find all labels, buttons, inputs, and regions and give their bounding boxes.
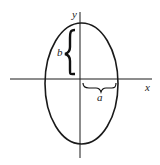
- ellipse: [45, 23, 118, 144]
- x-axis-label: x: [144, 81, 150, 93]
- y-axis-label: y: [71, 8, 77, 20]
- ellipse-diagram: y x b a: [0, 0, 160, 165]
- brace-b: [65, 30, 75, 74]
- semi-axis-a-label: a: [97, 91, 103, 103]
- semi-axis-b-label: b: [57, 46, 63, 58]
